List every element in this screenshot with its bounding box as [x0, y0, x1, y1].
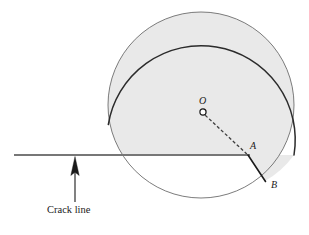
label-crack-line: Crack line: [47, 205, 90, 216]
figure-container: O A B Crack line: [0, 0, 309, 235]
crack-line-pointer-arrow: [71, 157, 79, 203]
label-center-o: O: [199, 96, 206, 106]
label-point-b: B: [271, 180, 277, 190]
center-point-marker: [200, 109, 206, 115]
geometry-diagram-svg: [0, 0, 309, 235]
label-point-a: A: [250, 141, 256, 151]
